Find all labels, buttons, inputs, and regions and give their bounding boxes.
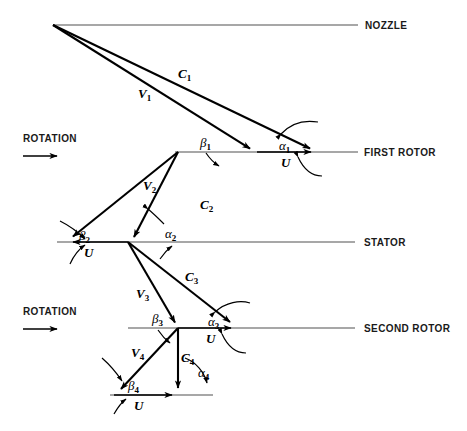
label-c4: C4 (181, 350, 195, 367)
rotation-label-first-rotor: ROTATION (23, 133, 77, 144)
leader-beta3 (158, 330, 170, 343)
turbine-velocity-triangle-svg: NOZZLE FIRST ROTOR STATOR SECOND ROTOR R… (0, 0, 467, 431)
label-c1: C1 (178, 66, 192, 83)
leader-beta2-lower (70, 245, 85, 264)
leader-u3 (222, 334, 246, 353)
label-alpha1: α1 (279, 138, 291, 155)
vector-v2 (73, 152, 178, 237)
leader-alpha2-lower (160, 246, 172, 259)
station-label-stator: STATOR (364, 237, 406, 248)
label-beta3: β3 (151, 311, 163, 328)
label-u3: U (206, 331, 216, 346)
vector-v1 (53, 25, 250, 149)
stage1-exit-triangle (73, 152, 178, 242)
leader-alpha2-upper (148, 209, 164, 224)
blade-speed-labels-group: U U U U (84, 155, 291, 413)
rotation-label-second-rotor: ROTATION (23, 306, 77, 317)
label-beta4: β4 (127, 378, 139, 395)
station-label-first-rotor: FIRST ROTOR (364, 147, 436, 158)
label-c3: C3 (185, 269, 199, 286)
label-v2: V2 (143, 178, 157, 195)
vector-labels-group: C1 V1 V2 C2 C3 V3 V4 C4 (131, 66, 214, 367)
leader-u1 (298, 157, 322, 176)
label-beta2: β2 (78, 228, 90, 245)
stage2-triangle (128, 242, 231, 328)
vector-c3 (128, 242, 230, 322)
label-v3: V3 (136, 286, 150, 303)
rotation-marker-second-rotor: ROTATION (23, 306, 77, 329)
leader-beta1 (206, 153, 219, 166)
label-alpha4: α4 (198, 365, 210, 382)
label-alpha2: α2 (165, 226, 177, 243)
vector-c1 (53, 25, 310, 149)
label-alpha3: α3 (208, 314, 220, 331)
leader-alpha1 (281, 121, 318, 134)
leader-alpha3 (215, 302, 250, 312)
stage2-exit-triangle (114, 328, 178, 395)
label-u4: U (134, 398, 144, 413)
label-v4: V4 (131, 345, 145, 362)
label-beta1: β1 (199, 135, 211, 152)
leader-beta4-upper (102, 358, 122, 381)
rotation-marker-first-rotor: ROTATION (23, 133, 77, 156)
label-u2: U (84, 245, 94, 260)
label-u1: U (281, 155, 291, 170)
station-label-second-rotor: SECOND ROTOR (364, 323, 451, 334)
station-labels-group: NOZZLE FIRST ROTOR STATOR SECOND ROTOR (364, 20, 451, 334)
leader-beta4-lower (114, 399, 126, 414)
label-c2: C2 (200, 197, 214, 214)
stage1-triangle (53, 25, 311, 152)
station-label-nozzle: NOZZLE (365, 20, 407, 31)
label-v1: V1 (138, 86, 152, 103)
velocity-triangle-diagram: NOZZLE FIRST ROTOR STATOR SECOND ROTOR R… (0, 0, 467, 431)
